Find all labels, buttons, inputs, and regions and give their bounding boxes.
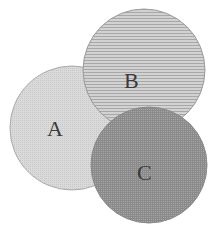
venn-diagram: A B C — [0, 0, 219, 235]
label-c: C — [137, 160, 152, 185]
label-b: B — [124, 68, 139, 93]
label-a: A — [47, 116, 63, 141]
